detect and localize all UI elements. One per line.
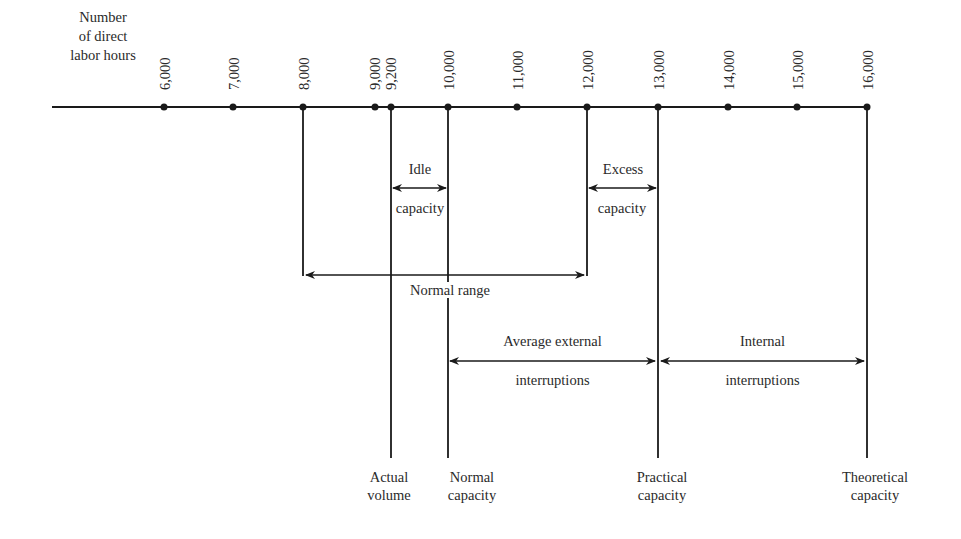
capacity-levels-diagram: Number of direct labor hours 6,000 7,000… <box>0 0 961 539</box>
tick-label-6000: 6,000 <box>157 57 173 90</box>
axis-title-line-3: labor hours <box>44 46 162 65</box>
normal-range-label: Normal range <box>409 282 491 298</box>
normal-capacity-line2: capacity <box>422 486 522 504</box>
tick-label-9000: 9,000 <box>367 57 383 90</box>
tick-label-10000: 10,000 <box>441 50 457 90</box>
axis-title: Number of direct labor hours <box>44 8 162 65</box>
tick-label-16000: 16,000 <box>860 50 876 90</box>
diagram-lines <box>0 0 961 539</box>
tick-label-13000: 13,000 <box>651 50 667 90</box>
internal-interruptions-label: interruptions <box>660 371 865 389</box>
practical-capacity-line2: capacity <box>612 486 712 504</box>
theoretical-capacity-line2: capacity <box>817 486 933 504</box>
excess-capacity-label: capacity <box>597 200 647 216</box>
tick-label-12000: 12,000 <box>580 50 596 90</box>
tick-label-14000: 14,000 <box>721 50 737 90</box>
normal-capacity-line1: Normal <box>422 468 522 486</box>
practical-capacity-marker: Practical capacity <box>612 468 712 504</box>
tick-label-15000: 15,000 <box>790 50 806 90</box>
tick-label-9200: 9,200 <box>383 57 399 90</box>
axis-title-line-2: of direct <box>44 27 162 46</box>
internal-label: Internal <box>660 332 865 350</box>
tick-label-7000: 7,000 <box>226 57 242 90</box>
tick-label-8000: 8,000 <box>296 57 312 90</box>
excess-label: Excess <box>588 160 658 178</box>
theoretical-capacity-line1: Theoretical <box>817 468 933 486</box>
average-external-label: Average external <box>450 332 655 350</box>
average-external-interruptions-label: interruptions <box>450 371 655 389</box>
theoretical-capacity-marker: Theoretical capacity <box>817 468 933 504</box>
practical-capacity-line1: Practical <box>612 468 712 486</box>
axis-title-line-1: Number <box>44 8 162 27</box>
idle-capacity-label: capacity <box>395 200 445 216</box>
idle-label: Idle <box>392 160 448 178</box>
tick-label-11000: 11,000 <box>510 51 526 90</box>
normal-capacity-marker: Normal capacity <box>422 468 522 504</box>
